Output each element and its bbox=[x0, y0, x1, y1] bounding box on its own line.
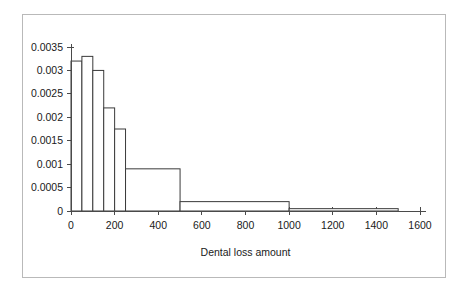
y-tick-label: 0.0005 bbox=[31, 181, 63, 193]
y-tick-label: 0.0025 bbox=[31, 87, 63, 99]
y-axis-tick-labels: 00.00050.0010.00150.0020.00250.0030.0035 bbox=[31, 41, 63, 217]
histogram-plot: 00.00050.0010.00150.0020.00250.0030.0035… bbox=[0, 0, 466, 295]
x-tick-label: 0 bbox=[68, 219, 74, 231]
x-tick-label: 1000 bbox=[277, 219, 301, 231]
y-tick-label: 0.0035 bbox=[31, 41, 63, 53]
y-tick-label: 0.002 bbox=[37, 111, 63, 123]
histogram-bar bbox=[93, 70, 104, 211]
y-tick-label: 0.003 bbox=[37, 64, 63, 76]
x-tick-label: 600 bbox=[193, 219, 211, 231]
y-tick-label: 0.001 bbox=[37, 158, 63, 170]
x-tick-label: 400 bbox=[149, 219, 167, 231]
histogram-bar bbox=[82, 56, 93, 211]
histogram-figure: 00.00050.0010.00150.0020.00250.0030.0035… bbox=[0, 0, 466, 295]
x-tick-label: 200 bbox=[106, 219, 124, 231]
histogram-bar bbox=[126, 169, 181, 211]
histogram-bar bbox=[104, 108, 115, 211]
x-tick-label: 1400 bbox=[365, 219, 389, 231]
histogram-bars bbox=[71, 56, 398, 211]
x-tick-label: 800 bbox=[237, 219, 255, 231]
histogram-bar bbox=[180, 202, 289, 211]
histogram-bar bbox=[71, 61, 82, 211]
x-tick-label: 1200 bbox=[321, 219, 345, 231]
x-axis-tick-labels: 02004006008001000120014001600 bbox=[68, 219, 432, 231]
histogram-bar bbox=[115, 129, 126, 211]
x-axis-title: Dental loss amount bbox=[201, 246, 291, 258]
y-tick-label: 0.0015 bbox=[31, 134, 63, 146]
x-tick-label: 1600 bbox=[408, 219, 432, 231]
y-tick-label: 0 bbox=[57, 205, 63, 217]
